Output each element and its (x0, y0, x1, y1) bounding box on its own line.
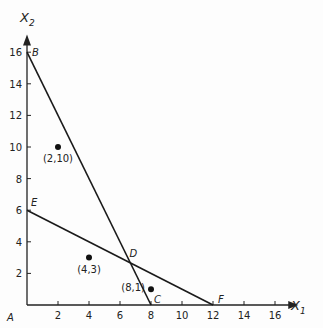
data-point-label: (8,1) (121, 282, 145, 293)
constraint-lines (27, 52, 213, 305)
x-tick-label: 10 (176, 310, 189, 321)
y-axis-label: X2 (19, 10, 35, 28)
x-axis-label: X1 (290, 298, 306, 316)
y-tick-label: 8 (16, 174, 22, 185)
x-tick-label: 12 (207, 310, 220, 321)
y-tick-label: 6 (16, 205, 22, 216)
vertex-label-b: B (32, 47, 39, 58)
x-tick-label: 8 (148, 310, 154, 321)
y-tick-label: 4 (16, 237, 22, 248)
data-points: (2,10)(4,3)(8,1) (43, 144, 154, 293)
y-tick-label: 10 (9, 142, 22, 153)
vertex-label-f: F (218, 294, 224, 305)
y-tick-label: 2 (16, 268, 22, 279)
x-tick-label: 6 (117, 310, 123, 321)
vertex-label-c: C (154, 294, 161, 305)
data-point (55, 144, 61, 150)
line-EF (27, 210, 213, 305)
y-tick-label: 12 (9, 110, 22, 121)
vertex-label-e: E (31, 197, 38, 208)
x-tick-label: 2 (55, 310, 61, 321)
vertex-label-a: A (6, 312, 14, 323)
y-axis-arrow (23, 34, 31, 45)
chart: 246810121416246810121416 (2,10)(4,3)(8,1… (0, 0, 323, 328)
y-tick-label: 14 (9, 79, 22, 90)
data-point (148, 286, 154, 292)
data-point-label: (2,10) (43, 153, 73, 164)
x-tick-label: 14 (238, 310, 251, 321)
data-point-label: (4,3) (77, 264, 101, 275)
vertex-labels: ABCDEF (6, 47, 224, 323)
vertex-label-d: D (129, 248, 137, 259)
axes: 246810121416246810121416 (9, 34, 298, 321)
x-tick-label: 4 (86, 310, 92, 321)
data-point (86, 255, 92, 261)
y-tick-label: 16 (9, 47, 22, 58)
x-tick-label: 16 (269, 310, 282, 321)
